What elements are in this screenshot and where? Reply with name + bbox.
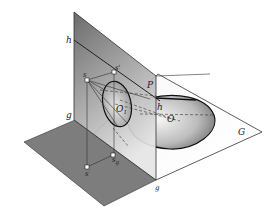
label-G: G — [238, 127, 245, 137]
label-s-ground: s — [85, 170, 89, 178]
label-h-right: h — [157, 102, 163, 112]
label-P: P — [146, 80, 154, 90]
label-g-bottom: g — [155, 184, 160, 192]
diagram-canvas: h P h s s' O1 O G g g s sg — [0, 0, 278, 218]
label-O: O — [167, 114, 175, 124]
label-g-left: g — [66, 110, 72, 120]
label-h-left: h — [66, 35, 72, 45]
label-s-prime: s' — [115, 64, 121, 72]
perspective-diagram: h P h s s' O1 O G g g s sg — [0, 0, 278, 218]
label-s: s — [83, 71, 87, 79]
point-s-ground — [85, 165, 89, 169]
